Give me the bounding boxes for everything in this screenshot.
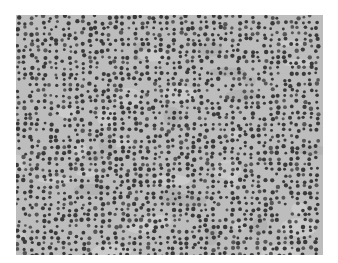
micrograph-image xyxy=(16,15,323,255)
tissue-texture xyxy=(16,15,323,255)
